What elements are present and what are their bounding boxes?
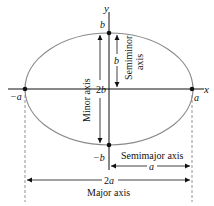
semimajor-axis-label: Semimajor axis <box>121 150 184 161</box>
left-vertex-point <box>23 87 28 92</box>
top-covertex-point <box>107 31 112 36</box>
minor-axis-label: Minor axis <box>81 78 92 122</box>
label-b: b <box>100 19 105 30</box>
y-axis-label: y <box>103 2 109 14</box>
semimajor-value: a <box>149 161 154 172</box>
minor-value: 2b <box>96 84 106 95</box>
label-neg-a: −a <box>10 91 22 102</box>
semiminor-value: b <box>114 55 119 66</box>
x-axis-label: x <box>203 83 209 95</box>
bottom-covertex-point <box>107 143 112 148</box>
major-axis-label: Major axis <box>87 187 130 198</box>
ellipse-diagram: y x −a a b −b 2b Minor axis b Semiminor … <box>0 0 214 206</box>
semiminor-label-line2: axis <box>134 54 145 70</box>
label-neg-b: −b <box>93 152 105 163</box>
label-a: a <box>194 92 199 103</box>
semiminor-label-line1: Semiminor <box>123 35 134 80</box>
right-vertex-point <box>190 87 195 92</box>
major-value: 2a <box>104 175 114 186</box>
